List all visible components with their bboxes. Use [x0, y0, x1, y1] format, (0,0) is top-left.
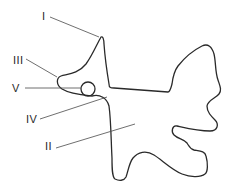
label-v: V	[12, 83, 20, 94]
leader-line-iii	[26, 59, 57, 77]
structure-v-circle	[81, 82, 95, 96]
leader-line-ii	[56, 124, 135, 148]
leader-line-iv	[40, 97, 107, 119]
shape-outline	[57, 37, 220, 180]
anatomical-outline-diagram	[0, 0, 230, 191]
label-ii: II	[45, 141, 52, 152]
label-iv: IV	[26, 114, 37, 125]
leader-line-i	[50, 17, 99, 37]
label-iii: III	[13, 55, 24, 66]
label-i: I	[42, 11, 46, 22]
